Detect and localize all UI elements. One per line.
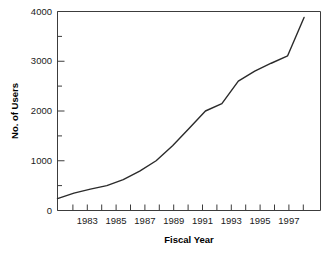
- x-axis-label-1985: 1985: [106, 215, 127, 226]
- x-axis-label-1997: 1997: [278, 215, 299, 226]
- x-axis-title: Fiscal Year: [164, 234, 214, 245]
- plot-frame: [58, 12, 321, 211]
- x-axis-label-1987: 1987: [134, 215, 155, 226]
- x-axis-label-1995: 1995: [250, 215, 271, 226]
- x-axis-label-1993: 1993: [221, 215, 242, 226]
- y-axis-label-2000: 2000: [31, 105, 52, 116]
- x-axis-label-1983: 1983: [77, 215, 98, 226]
- x-axis-label-1989: 1989: [163, 215, 184, 226]
- y-axis-major-ticks: [58, 12, 65, 211]
- x-axis-label-1991: 1991: [192, 215, 213, 226]
- x-axis-ticks: [73, 205, 303, 211]
- y-axis-label-3000: 3000: [31, 55, 52, 66]
- line-chart: 0 1000 2000 3000 4000 No. of Users: [0, 0, 331, 256]
- y-axis-labels: 0 1000 2000 3000 4000: [31, 6, 52, 216]
- y-axis-label-0: 0: [47, 205, 52, 216]
- x-axis-labels: 1983 1985 1987 1989 1991 1993 1995 1997: [77, 215, 300, 226]
- data-series-line: [58, 17, 305, 198]
- y-axis-label-1000: 1000: [31, 155, 52, 166]
- y-axis-title: No. of Users: [9, 83, 20, 139]
- chart-figure: 0 1000 2000 3000 4000 No. of Users: [0, 0, 331, 256]
- y-axis-label-4000: 4000: [31, 6, 52, 17]
